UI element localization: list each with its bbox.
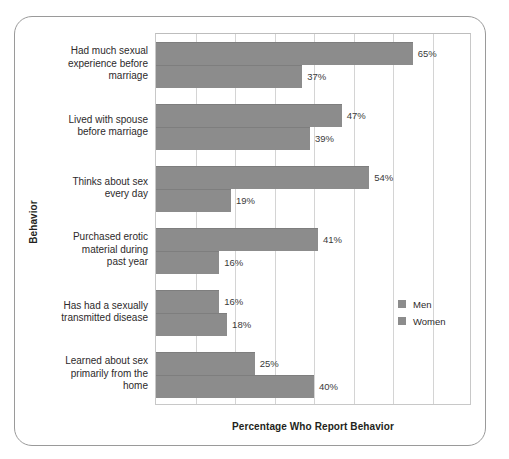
legend-swatch-icon bbox=[398, 300, 406, 308]
bar-men bbox=[156, 352, 255, 375]
category-label-line: home bbox=[40, 380, 148, 392]
category-label-line: Lived with spouse bbox=[40, 114, 148, 126]
bar-value-label: 47% bbox=[347, 111, 366, 121]
category-label-line: Purchased erotic bbox=[40, 231, 148, 243]
x-gridline bbox=[275, 34, 276, 404]
x-gridline bbox=[433, 34, 434, 404]
bar-women bbox=[156, 189, 231, 212]
bar-group: 65%37% bbox=[156, 42, 470, 88]
category-label-line: marriage bbox=[40, 70, 148, 82]
plot-area: 65%37%47%39%54%19%41%16%16%18%25%40% bbox=[155, 33, 471, 405]
legend-label: Men bbox=[413, 299, 431, 310]
bar-value-label: 41% bbox=[323, 235, 342, 245]
bar-men bbox=[156, 166, 369, 189]
legend-label: Women bbox=[413, 316, 446, 327]
category-label-line: primarily from the bbox=[40, 368, 148, 380]
category-label-line: every day bbox=[40, 188, 148, 200]
category-label-line: Has had a sexually bbox=[40, 300, 148, 312]
bar-women bbox=[156, 65, 302, 88]
bar-value-label: 37% bbox=[307, 72, 326, 82]
legend-swatch-icon bbox=[398, 317, 406, 325]
x-gridline bbox=[393, 34, 394, 404]
bar-women bbox=[156, 313, 227, 336]
x-gridline bbox=[354, 34, 355, 404]
category-label-line: before marriage bbox=[40, 126, 148, 138]
chart-legend: MenWomen bbox=[398, 297, 462, 331]
category-label: Has had a sexuallytransmitted disease bbox=[40, 300, 148, 325]
bar-women bbox=[156, 251, 219, 274]
bar-value-label: 40% bbox=[319, 382, 338, 392]
bar-women bbox=[156, 375, 314, 398]
bar-value-label: 39% bbox=[315, 134, 334, 144]
bar-value-label: 18% bbox=[232, 320, 251, 330]
category-label: Purchased eroticmaterial duringpast year bbox=[40, 231, 148, 268]
category-label-column: Had much sexualexperience beforemarriage… bbox=[38, 33, 148, 405]
x-gridline bbox=[314, 34, 315, 404]
category-label-line: Thinks about sex bbox=[40, 176, 148, 188]
x-gridline bbox=[235, 34, 236, 404]
category-label: Learned about sexprimarily from thehome bbox=[40, 355, 148, 392]
category-label: Lived with spousebefore marriage bbox=[40, 114, 148, 139]
bar-value-label: 16% bbox=[224, 297, 243, 307]
bar-men bbox=[156, 42, 413, 65]
bar-men bbox=[156, 290, 219, 313]
bar-men bbox=[156, 104, 342, 127]
category-label: Thinks about sexevery day bbox=[40, 176, 148, 201]
x-gridline bbox=[196, 34, 197, 404]
bar-group: 54%19% bbox=[156, 166, 470, 212]
bar-group: 47%39% bbox=[156, 104, 470, 150]
bar-value-label: 65% bbox=[418, 49, 437, 59]
category-label-line: experience before bbox=[40, 58, 148, 70]
bar-value-label: 54% bbox=[374, 173, 393, 183]
bar-women bbox=[156, 127, 310, 150]
legend-item[interactable]: Women bbox=[398, 314, 462, 328]
bar-group: 25%40% bbox=[156, 352, 470, 398]
category-label-line: Learned about sex bbox=[40, 355, 148, 367]
category-label-line: Had much sexual bbox=[40, 45, 148, 57]
bar-men bbox=[156, 228, 318, 251]
category-label-line: past year bbox=[40, 256, 148, 268]
bar-value-label: 16% bbox=[224, 258, 243, 268]
legend-item[interactable]: Men bbox=[398, 297, 462, 311]
category-label-line: transmitted disease bbox=[40, 312, 148, 324]
category-label: Had much sexualexperience beforemarriage bbox=[40, 45, 148, 82]
bar-value-label: 25% bbox=[260, 359, 279, 369]
bar-group: 41%16% bbox=[156, 228, 470, 274]
x-axis-title: Percentage Who Report Behavior bbox=[155, 421, 471, 432]
category-label-line: material during bbox=[40, 244, 148, 256]
bar-value-label: 19% bbox=[236, 196, 255, 206]
chart-figure: Behavior Had much sexualexperience befor… bbox=[0, 0, 509, 459]
